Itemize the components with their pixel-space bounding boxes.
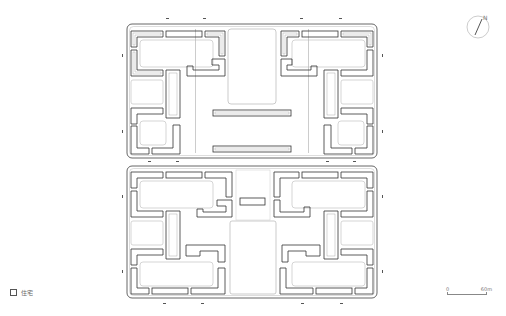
building-vertical-nw <box>166 70 180 118</box>
building-vertical-ne <box>324 70 338 118</box>
south-block <box>122 166 383 304</box>
courtyard-cluster-south-sw <box>131 245 225 294</box>
central-building-bars <box>213 110 291 152</box>
legend-swatch-residential <box>10 289 17 296</box>
legend-label-residential: 住宅 <box>21 289 33 296</box>
legend: 住宅 <box>10 289 33 296</box>
north-block <box>122 18 383 162</box>
scale-tick-end <box>486 292 487 295</box>
courtyard-cluster-ne <box>281 31 373 76</box>
courtyard-cluster-south-ne <box>274 172 373 259</box>
plaza-south <box>230 221 276 294</box>
compass-icon <box>466 14 492 40</box>
north-arrow <box>466 14 492 44</box>
courtyard-cluster-nw <box>131 31 225 76</box>
plaza-north <box>228 29 276 104</box>
central-bar-south <box>240 198 265 205</box>
scale-bar: 0 60m <box>446 286 488 300</box>
north-label: N <box>483 14 488 21</box>
scale-line <box>447 294 487 295</box>
courtyard-cluster-south-nw <box>131 172 232 259</box>
site-plan <box>0 0 506 316</box>
entrance-markers-north <box>122 18 383 162</box>
courtyard-cluster-south-se <box>280 245 373 294</box>
